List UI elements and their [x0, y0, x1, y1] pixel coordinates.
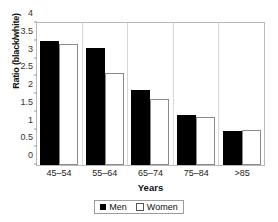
- bar-men: [223, 131, 242, 165]
- bar-group: [173, 23, 219, 165]
- x-axis-tick-labels: 45–5455–6465–7475–84>85: [36, 168, 265, 178]
- bar-men: [131, 90, 150, 165]
- y-axis-tick-label: 3.5: [20, 26, 37, 36]
- y-axis-tick-label: 0: [28, 150, 37, 160]
- bar-men: [86, 48, 105, 165]
- bar-group: [82, 23, 128, 165]
- y-axis-tick-label: 4: [28, 8, 37, 18]
- x-axis-title: Years: [36, 182, 265, 193]
- bar-women: [150, 99, 169, 165]
- bar-group: [37, 23, 82, 165]
- legend-box: MenWomen: [94, 200, 183, 214]
- legend-item: Women: [136, 202, 178, 212]
- y-axis-tick-label: 3: [28, 44, 37, 54]
- legend-swatch-icon: [136, 203, 144, 211]
- x-axis-tick-label: 45–54: [36, 168, 82, 178]
- bar-women: [196, 117, 215, 165]
- y-axis-tick-label: 2: [28, 79, 37, 89]
- bar-women: [105, 73, 124, 165]
- bar-men: [177, 115, 196, 165]
- y-axis-tick-label: 0.5: [20, 132, 37, 142]
- bar-chart-figure: Ratio (black/white) 00.511.522.533.54 45…: [0, 0, 278, 222]
- bar-men: [40, 41, 59, 165]
- legend-label: Women: [147, 202, 178, 212]
- x-axis-tick-label: >85: [219, 168, 265, 178]
- y-axis-tick-label: 1: [28, 115, 37, 125]
- x-axis-tick-label: 75–84: [173, 168, 219, 178]
- legend-label: Men: [109, 202, 127, 212]
- legend: MenWomen: [0, 200, 278, 214]
- y-axis-tick-label: 2.5: [20, 61, 37, 71]
- x-axis-tick-label: 55–64: [82, 168, 128, 178]
- bar-groups: [37, 23, 264, 165]
- x-axis-tick-label: 65–74: [128, 168, 174, 178]
- bar-group: [127, 23, 173, 165]
- legend-item: Men: [100, 202, 127, 212]
- legend-swatch-icon: [100, 204, 106, 210]
- plot-area: 00.511.522.533.54: [36, 22, 265, 166]
- bar-women: [242, 130, 261, 165]
- bar-women: [59, 44, 78, 165]
- y-axis-tick-label: 1.5: [20, 97, 37, 107]
- bar-group: [218, 23, 264, 165]
